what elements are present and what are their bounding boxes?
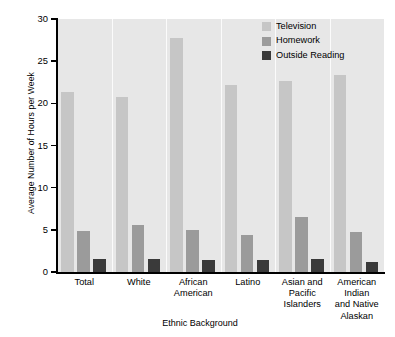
legend-swatch-icon bbox=[262, 37, 271, 46]
bar-group bbox=[166, 19, 221, 272]
bar bbox=[61, 92, 74, 272]
y-tick-label-0: 0 bbox=[26, 267, 48, 276]
bar-group bbox=[112, 19, 167, 272]
bar bbox=[170, 38, 183, 272]
bar bbox=[148, 259, 161, 272]
legend-item: Outside Reading bbox=[262, 49, 384, 62]
bar bbox=[202, 260, 215, 272]
y-tick-label-5: 5 bbox=[26, 225, 48, 234]
bar bbox=[311, 259, 324, 272]
legend-label: Television bbox=[276, 22, 316, 31]
bar bbox=[350, 232, 363, 272]
legend-swatch-icon bbox=[262, 22, 271, 31]
legend-item: Television bbox=[262, 20, 384, 33]
y-tick-label-15: 15 bbox=[26, 141, 48, 150]
legend-label: Outside Reading bbox=[276, 51, 344, 60]
x-tick-label: AmericanIndianand NativeAlaskan bbox=[324, 277, 391, 322]
bar-chart: Average Number of Hours per Week 0510152… bbox=[0, 0, 395, 337]
x-axis-line bbox=[56, 272, 385, 274]
bar-group bbox=[57, 19, 112, 272]
bar bbox=[334, 75, 347, 272]
legend-label: Homework bbox=[276, 36, 320, 45]
x-axis-title: Ethnic Background bbox=[120, 318, 280, 328]
y-tick-label-25: 25 bbox=[26, 56, 48, 65]
bar bbox=[116, 97, 129, 272]
legend-item: Homework bbox=[262, 35, 384, 48]
bar bbox=[241, 235, 254, 272]
bar bbox=[77, 231, 90, 272]
bar bbox=[186, 230, 199, 272]
bar bbox=[257, 260, 270, 272]
bar bbox=[93, 259, 106, 272]
legend-swatch-icon bbox=[262, 51, 271, 60]
y-tick-label-10: 10 bbox=[26, 183, 48, 192]
bar bbox=[366, 262, 379, 272]
bar bbox=[132, 225, 145, 272]
y-tick-label-20: 20 bbox=[26, 98, 48, 107]
bar bbox=[225, 85, 238, 272]
bar bbox=[295, 217, 308, 272]
bar bbox=[279, 81, 292, 272]
y-tick-label-30: 30 bbox=[26, 14, 48, 23]
legend: TelevisionHomeworkOutside Reading bbox=[262, 20, 384, 64]
